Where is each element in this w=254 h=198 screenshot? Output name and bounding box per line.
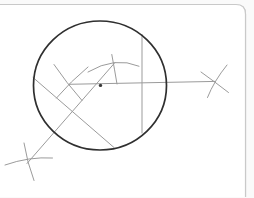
- construction-sketch: [0, 0, 254, 197]
- center-dot: [99, 84, 102, 87]
- screenshot-root: [0, 0, 254, 197]
- page-card-fill: [0, 5, 246, 198]
